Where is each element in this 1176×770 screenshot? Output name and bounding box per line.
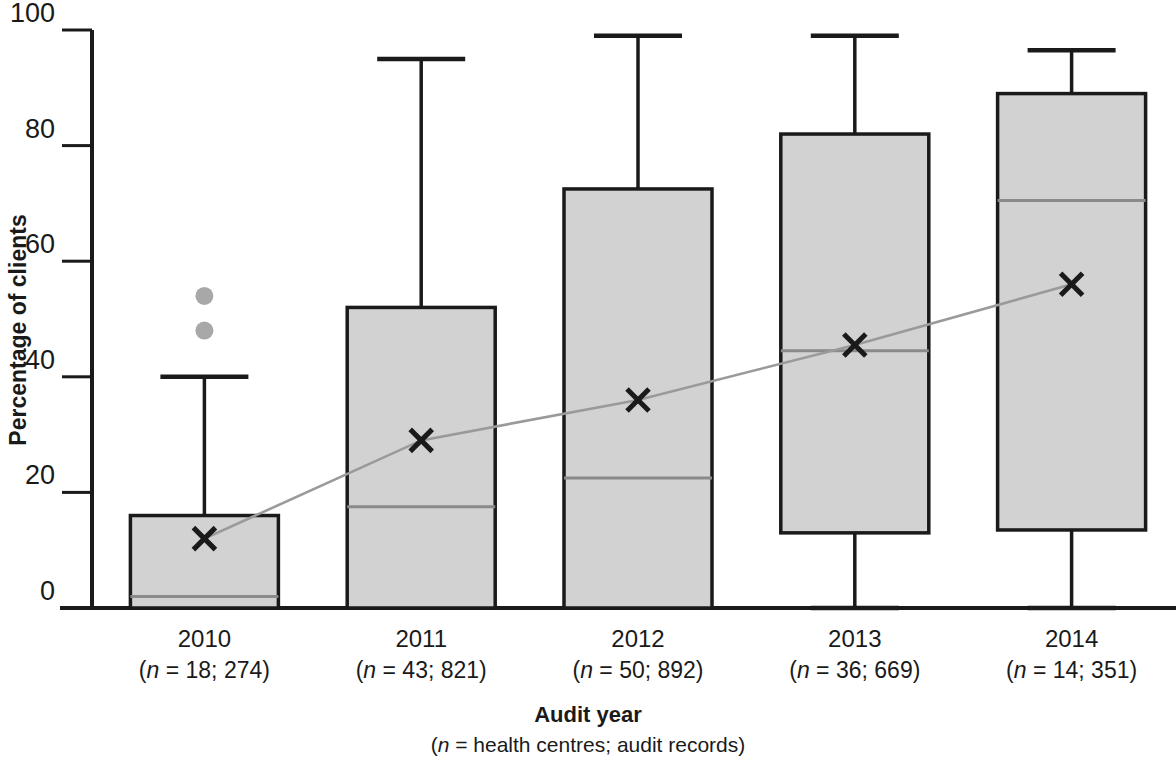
y-tick-label: 100 xyxy=(10,0,55,28)
x-axis-title: Audit year xyxy=(534,702,642,727)
x-tick-group: 2010(n = 18; 274)2011(n = 43; 821)2012(n… xyxy=(139,625,1137,683)
boxplot-2010 xyxy=(130,287,278,608)
x-tick-label-year: 2014 xyxy=(1045,625,1098,652)
boxplot-2013 xyxy=(781,36,929,608)
x-tick-label-year: 2011 xyxy=(395,625,447,652)
box-group xyxy=(130,36,1145,608)
x-tick-label-counts: (n = 14; 351) xyxy=(1006,657,1137,683)
x-tick-label-year: 2013 xyxy=(828,625,881,652)
y-tick-label: 80 xyxy=(25,114,55,144)
box-rect xyxy=(781,134,929,533)
box-rect xyxy=(347,307,495,608)
y-tick-label: 20 xyxy=(25,460,55,490)
x-tick-label-counts: (n = 43; 821) xyxy=(356,657,487,683)
y-tick-label: 0 xyxy=(40,576,55,606)
x-tick-label-year: 2012 xyxy=(611,625,664,652)
x-tick-label-year: 2010 xyxy=(178,625,231,652)
x-tick-label-counts: (n = 50; 892) xyxy=(572,657,703,683)
outlier-point xyxy=(195,287,213,305)
boxplot-svg: 020406080100 2010(n = 18; 274)2011(n = 4… xyxy=(0,0,1176,770)
boxplot-2014 xyxy=(998,50,1146,608)
box-rect xyxy=(998,94,1146,530)
outlier-point xyxy=(195,322,213,340)
y-axis-title: Percentage of clients xyxy=(5,214,31,445)
x-tick-label-counts: (n = 36; 669) xyxy=(789,657,920,683)
box-rect xyxy=(130,516,278,608)
boxplot-figure: 020406080100 2010(n = 18; 274)2011(n = 4… xyxy=(0,0,1176,770)
x-tick-label-counts: (n = 18; 274) xyxy=(139,657,270,683)
boxplot-2012 xyxy=(564,36,712,608)
x-axis-subtitle: (n = health centres; audit records) xyxy=(431,733,746,756)
boxplot-2011 xyxy=(347,59,495,608)
